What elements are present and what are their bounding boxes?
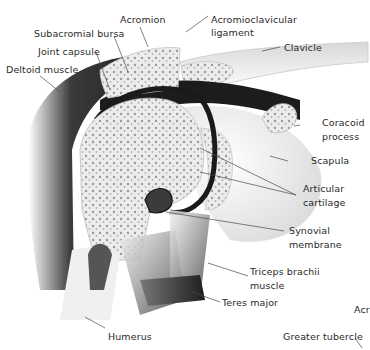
label-deltoid-muscle: Deltoid muscle [6, 64, 78, 76]
label-subacromial-bursa: Subacromial bursa [34, 28, 124, 40]
label-acromion: Acromion [120, 14, 166, 26]
label-clavicle: Clavicle [284, 42, 322, 54]
label-coracoid-line2: process [322, 131, 359, 143]
label-articular-line1: Articular [303, 183, 344, 195]
label-acromioclavicular-line1: Acromioclavicular [211, 14, 297, 26]
label-coracoid-line1: Coracoid [322, 117, 365, 129]
label-acromioclavicular-line2: ligament [211, 27, 254, 39]
label-humerus: Humerus [108, 331, 152, 343]
label-synovial-line2: membrane [289, 239, 342, 251]
label-scapula: Scapula [311, 155, 349, 167]
teres-major-shape [140, 275, 205, 306]
label-synovial-line1: Synovial [289, 225, 330, 237]
label-articular-line2: cartilage [303, 197, 346, 209]
label-teres-major: Teres major [222, 297, 278, 309]
label-partial-acromion: Acr [354, 304, 370, 316]
label-triceps-line2: muscle [250, 280, 285, 292]
label-triceps-line1: Triceps brachii [250, 266, 320, 278]
label-greater-tubercle: Greater tubercle [283, 331, 363, 343]
label-joint-capsule: Joint capsule [38, 46, 100, 58]
